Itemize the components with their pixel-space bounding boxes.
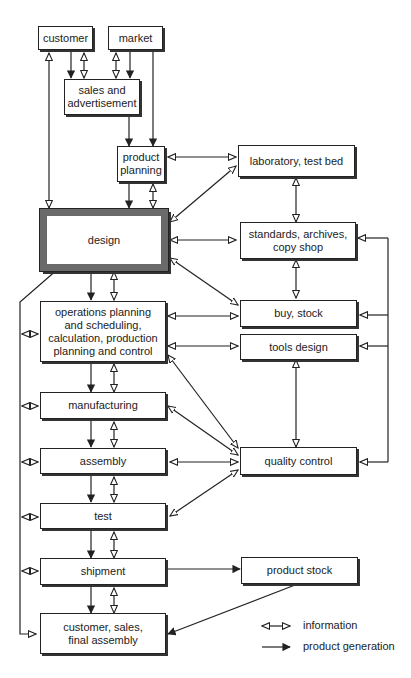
node-market: market (108, 26, 163, 50)
node-tools-design: tools design (240, 334, 357, 360)
legend-product-generation: product generation (303, 640, 395, 652)
node-quality-control: quality control (240, 447, 357, 475)
node-customer: customer (38, 26, 93, 50)
node-product-planning: product planning (117, 146, 165, 182)
node-assembly: assembly (40, 448, 166, 474)
node-manufacturing: manufacturing (40, 392, 166, 419)
legend-information: information (303, 619, 357, 631)
node-buy-stock: buy, stock (240, 300, 357, 327)
node-product-stock: product stock (241, 557, 358, 584)
node-test: test (40, 503, 166, 529)
node-shipment: shipment (40, 558, 166, 585)
node-operations-planning: operations planning and scheduling, calc… (40, 301, 166, 362)
node-sales-advertisement: sales and advertisement (64, 79, 140, 115)
node-customer-sales-final-assembly: customer, sales, final assembly (40, 613, 166, 654)
node-standards-archives: standards, archives, copy shop (240, 222, 356, 259)
node-laboratory-test-bed: laboratory, test bed (238, 145, 355, 177)
node-design: design (40, 209, 168, 271)
